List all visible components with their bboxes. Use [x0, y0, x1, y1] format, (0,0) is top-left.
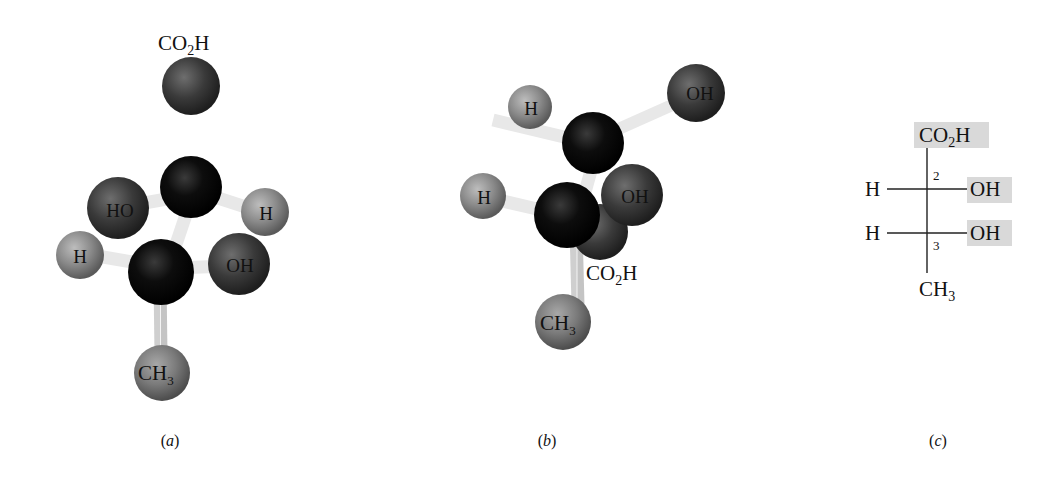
caption-c: (c)	[908, 432, 968, 450]
fischer-c2-left-h: H	[865, 177, 880, 201]
fischer-projection: CO2H 2 H OH 3 H OH CH3	[850, 110, 1030, 310]
carbon-number-2: 2	[933, 168, 940, 184]
fischer-c2-right-oh: OH	[970, 177, 1000, 201]
fischer-bottom-ch3: CH3	[919, 277, 955, 304]
fischer-c3-left-h: H	[865, 221, 880, 245]
panel-c-fischer-projection: CO2H 2 H OH 3 H OH CH3 (c)	[0, 0, 1052, 487]
carbon-number-3: 3	[933, 238, 940, 254]
fischer-c3-right-oh: OH	[970, 221, 1000, 245]
fischer-top-co2h: CO2H	[919, 123, 970, 150]
